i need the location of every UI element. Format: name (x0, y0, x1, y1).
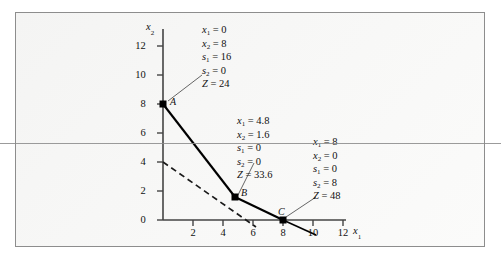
figure-page: x2 x1 0 2 4 6 8 10 12 2 4 6 8 10 12 A B … (0, 0, 501, 260)
annotation-a-line-2: x2 = 8 (202, 38, 231, 52)
point-label-a: A (170, 96, 176, 107)
annotation-b-line-4: s2 = 0 (237, 156, 272, 170)
annotation-c-line-2: x2 = 0 (313, 150, 341, 164)
annotation-b-line-2: x2 = 1.6 (237, 129, 272, 143)
y-tick-4: 4 (133, 156, 153, 167)
point-label-c: C (278, 206, 285, 217)
annotation-b-line-5: Z = 33.6 (237, 169, 272, 183)
annotation-b-line-3: s1 = 0 (237, 142, 272, 156)
boundary-segment-bc (235, 197, 283, 220)
y-tick-8: 8 (133, 98, 153, 109)
x-tick-12: 12 (333, 227, 353, 238)
x-axis-label: x1 (353, 225, 361, 239)
annotation-corner-c: x1 = 8 x2 = 0 s1 = 0 s2 = 8 Z = 48 (313, 136, 341, 204)
annotation-c-line-1: x1 = 8 (313, 136, 341, 150)
annotation-a-line-3: s1 = 16 (202, 51, 231, 65)
x-tick-10: 10 (303, 227, 323, 238)
annotation-c-line-4: s2 = 8 (313, 177, 341, 191)
leader-line-c (286, 197, 316, 217)
figure-frame: x2 x1 0 2 4 6 8 10 12 2 4 6 8 10 12 A B … (15, 12, 485, 247)
boundary-segment-ab (163, 104, 235, 197)
annotation-a-line-1: x1 = 0 (202, 24, 231, 38)
point-marker-c (280, 217, 287, 224)
annotation-a-line-5: Z = 24 (202, 78, 231, 92)
point-marker-a (160, 101, 167, 108)
y-tick-0: 0 (133, 214, 153, 225)
x-tick-8: 8 (273, 227, 293, 238)
x-tick-4: 4 (213, 227, 233, 238)
annotation-corner-a: x1 = 0 x2 = 8 s1 = 16 s2 = 0 Z = 24 (202, 24, 231, 92)
y-axis-label: x2 (146, 21, 154, 35)
y-axis-ticks (157, 46, 163, 220)
point-marker-b (232, 194, 239, 201)
y-tick-12: 12 (128, 40, 153, 51)
y-tick-2: 2 (133, 185, 153, 196)
annotation-b-line-1: x1 = 4.8 (237, 115, 272, 129)
x-axis-ticks (193, 220, 343, 226)
y-tick-10: 10 (128, 69, 153, 80)
annotation-c-line-5: Z = 48 (313, 190, 341, 204)
point-label-b: B (241, 187, 247, 198)
annotation-corner-b: x1 = 4.8 x2 = 1.6 s1 = 0 s2 = 0 Z = 33.6 (237, 115, 272, 183)
annotation-a-line-4: s2 = 0 (202, 65, 231, 79)
x-tick-2: 2 (183, 227, 203, 238)
y-tick-6: 6 (133, 127, 153, 138)
annotation-c-line-3: s1 = 0 (313, 163, 341, 177)
x-tick-6: 6 (243, 227, 263, 238)
